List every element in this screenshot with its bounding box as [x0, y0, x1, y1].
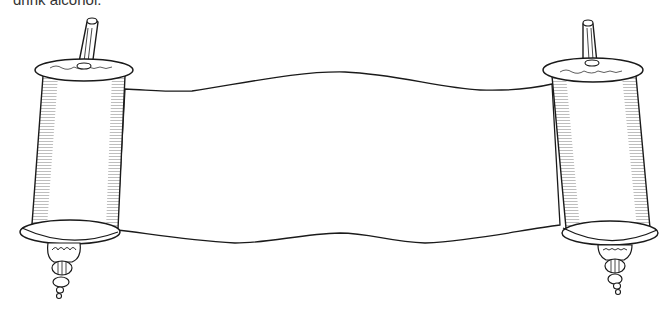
scroll-illustration: [0, 0, 665, 310]
scroll-paper: [117, 72, 560, 243]
left-roller: [20, 18, 133, 299]
right-roller: [543, 20, 658, 295]
